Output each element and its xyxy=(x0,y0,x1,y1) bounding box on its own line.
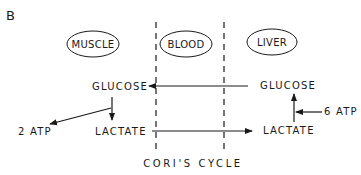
muscle-atp-label: 2 ATP xyxy=(18,126,52,137)
atp-yield-arrow xyxy=(50,108,111,124)
muscle-compartment: MUSCLE xyxy=(67,31,119,57)
liver-compartment: LIVER xyxy=(247,29,297,55)
diagram-caption: CORI'S CYCLE xyxy=(143,158,242,169)
panel-label: B xyxy=(6,8,16,23)
liver-label: LIVER xyxy=(257,37,287,48)
liver-glucose-label: GLUCOSE xyxy=(260,80,316,91)
blood-compartment: BLOOD xyxy=(160,31,212,57)
liver-lactate-label: LACTATE xyxy=(263,125,315,136)
liver-atp-label: 6 ATP xyxy=(324,106,358,117)
blood-label: BLOOD xyxy=(167,39,204,50)
muscle-label: MUSCLE xyxy=(72,39,115,50)
cori-cycle-diagram: B MUSCLE BLOOD LIVER GLUCOSE LACTATE 2 A… xyxy=(0,0,361,175)
muscle-glucose-label: GLUCOSE xyxy=(92,81,148,92)
muscle-lactate-label: LACTATE xyxy=(95,126,147,137)
